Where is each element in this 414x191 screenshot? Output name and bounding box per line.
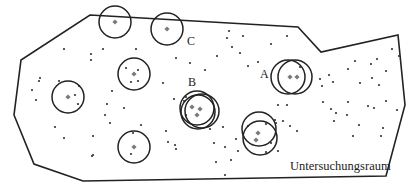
data-point xyxy=(54,126,56,128)
center-marker-icon xyxy=(287,74,292,79)
data-point xyxy=(224,146,226,148)
data-point xyxy=(63,137,65,139)
data-point xyxy=(137,80,139,82)
data-point xyxy=(230,159,232,161)
center-marker-icon xyxy=(253,137,258,142)
data-point xyxy=(189,62,191,64)
sample-circle xyxy=(242,112,276,146)
data-point xyxy=(216,55,218,57)
data-point xyxy=(277,150,279,152)
data-point xyxy=(209,128,211,130)
center-marker-icon xyxy=(131,71,136,76)
data-point xyxy=(38,80,40,82)
data-point xyxy=(140,124,142,126)
circle-center-markers xyxy=(65,19,299,149)
center-marker-icon xyxy=(164,26,169,31)
data-point xyxy=(74,94,76,96)
data-point xyxy=(270,43,272,45)
data-point xyxy=(382,127,384,129)
data-point xyxy=(90,59,92,61)
data-point xyxy=(204,69,206,71)
data-point xyxy=(359,82,361,84)
data-point xyxy=(380,135,382,137)
center-marker-icon xyxy=(255,130,260,135)
data-point xyxy=(247,65,249,67)
center-marker-icon xyxy=(294,74,299,79)
data-point xyxy=(282,120,284,122)
data-point xyxy=(352,135,354,137)
sample-circles xyxy=(52,6,312,163)
data-point xyxy=(109,122,111,124)
data-point xyxy=(328,74,330,76)
data-point xyxy=(289,125,291,127)
data-point xyxy=(347,68,349,70)
data-point xyxy=(322,101,324,103)
data-point xyxy=(373,107,375,109)
data-point xyxy=(125,67,127,69)
center-marker-icon xyxy=(131,144,136,149)
data-point xyxy=(376,58,378,60)
data-point xyxy=(213,142,215,144)
data-point xyxy=(354,60,356,62)
data-point xyxy=(385,100,387,102)
study-area-label: Untersuchungsraum xyxy=(290,160,391,173)
data-point xyxy=(286,35,288,37)
data-point xyxy=(277,104,279,106)
center-marker-icon xyxy=(194,112,199,117)
data-point xyxy=(35,99,37,101)
data-point xyxy=(224,174,226,176)
data-point xyxy=(347,101,349,103)
label-c: C xyxy=(187,35,195,47)
data-point xyxy=(333,120,335,122)
data-point xyxy=(226,37,228,39)
data-point xyxy=(123,107,125,109)
data-point xyxy=(90,53,92,55)
data-point xyxy=(104,114,106,116)
data-point xyxy=(370,63,372,65)
data-point xyxy=(58,80,60,82)
data-point xyxy=(175,57,177,59)
data-point xyxy=(358,124,360,126)
data-point xyxy=(167,141,169,143)
data-point xyxy=(265,123,267,125)
data-point xyxy=(215,161,217,163)
data-point xyxy=(319,78,321,80)
data-point xyxy=(63,48,65,50)
data-point xyxy=(335,112,337,114)
data-point xyxy=(92,135,94,137)
data-point xyxy=(396,109,398,111)
data-point xyxy=(385,70,387,72)
data-point xyxy=(77,103,79,105)
data-point xyxy=(398,55,400,57)
data-point xyxy=(346,114,348,116)
data-point xyxy=(330,108,332,110)
data-point xyxy=(31,89,33,91)
data-point xyxy=(102,48,104,50)
data-point xyxy=(130,153,132,155)
data-point xyxy=(39,77,41,79)
center-marker-icon xyxy=(197,106,202,111)
data-point xyxy=(286,104,288,106)
data-point xyxy=(391,48,393,50)
data-point xyxy=(378,84,380,86)
data-point xyxy=(175,148,177,150)
sample-circle-b xyxy=(181,95,215,129)
data-point xyxy=(137,69,139,71)
data-point xyxy=(242,35,244,37)
data-point xyxy=(132,132,134,134)
data-point xyxy=(174,144,176,146)
data-point xyxy=(106,103,108,105)
data-point xyxy=(367,105,369,107)
data-point xyxy=(332,81,334,83)
center-marker-icon xyxy=(65,94,70,99)
data-point xyxy=(296,130,298,132)
data-point xyxy=(239,52,241,54)
data-point xyxy=(92,154,94,156)
data-point xyxy=(235,138,237,140)
data-point xyxy=(130,81,132,83)
data-point xyxy=(222,126,224,128)
label-b: B xyxy=(188,76,196,88)
sample-circle xyxy=(243,121,277,155)
scatter-points xyxy=(31,30,400,176)
data-point xyxy=(371,77,373,79)
